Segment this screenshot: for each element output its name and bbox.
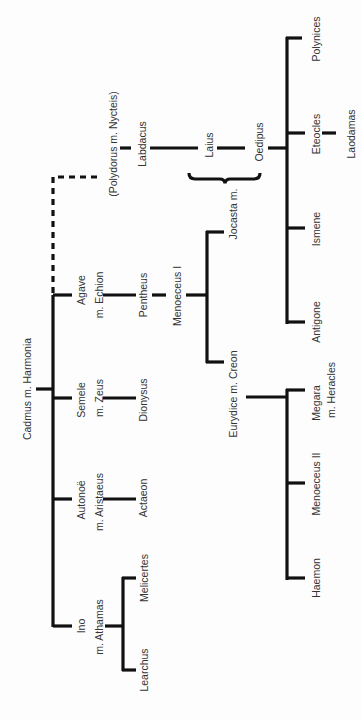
node-pentheus: Pentheus (137, 273, 149, 317)
node-ino: Ino (75, 619, 87, 634)
node-menoeceus-1: Menoeceus I (171, 266, 183, 326)
node-creon: Eurydice m. Creon (227, 350, 239, 437)
node-megara: Megara (310, 385, 322, 421)
node-dionysus: Dionysus (137, 378, 149, 421)
node-ino-spouse: m. Athamas (93, 599, 105, 654)
node-antigone: Antigone (310, 301, 322, 343)
connector-lines (36, 37, 336, 671)
node-laodamas: Laodamas (345, 109, 357, 158)
node-autonoe-spouse: m. Aristaeus (93, 473, 105, 531)
node-polydorus: (Polydorus m. Nycteis) (107, 91, 119, 197)
node-polynices: Polynices (310, 17, 322, 62)
node-eteocles: Eteocles (310, 114, 322, 154)
family-tree-diagram: Cadmus m. Harmonia (Polydorus m. Nycteis… (0, 0, 361, 720)
node-oedipus: Oedipus (253, 122, 265, 161)
node-learchus: Learchus (138, 648, 150, 691)
node-menoeceus-2: Menoeceus II (310, 452, 322, 515)
node-laius: Laius (203, 132, 215, 157)
node-semele: Semele (75, 382, 87, 418)
node-jocasta: Jocasta m. (227, 189, 239, 240)
node-melicertes: Melicertes (138, 554, 150, 602)
node-cadmus: Cadmus m. Harmonia (21, 338, 33, 440)
node-megara-spouse: m. Heracles (325, 362, 337, 418)
node-labdacus: Labdacus (136, 121, 148, 167)
node-ismene: Ismene (310, 212, 322, 247)
node-agave-spouse: m. Echion (93, 271, 105, 318)
node-actaeon: Actaeon (137, 479, 149, 518)
node-semele-spouse: m. Zeus (93, 379, 105, 417)
tree-canvas: Cadmus m. Harmonia (Polydorus m. Nycteis… (0, 0, 361, 720)
node-autonoe: Autonoë (75, 480, 87, 519)
node-labels: Cadmus m. Harmonia (Polydorus m. Nycteis… (21, 17, 357, 692)
node-agave: Agave (75, 275, 87, 305)
node-haemon: Haemon (310, 558, 322, 598)
marriage-brace (189, 173, 260, 183)
